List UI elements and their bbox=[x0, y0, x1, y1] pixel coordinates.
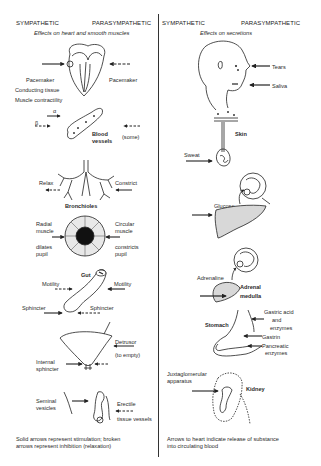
pupil-iris-illustration bbox=[65, 216, 105, 256]
heart-illustration bbox=[67, 44, 105, 96]
stomach-illustration bbox=[214, 310, 262, 356]
blood-vessel-illustration bbox=[67, 108, 102, 138]
gut-illustration bbox=[64, 270, 106, 313]
face-illustration bbox=[199, 41, 251, 110]
heart-sketch-adrenal bbox=[234, 248, 258, 272]
adrenal-medulla-illustration bbox=[213, 282, 240, 302]
heart-sketch-liver bbox=[240, 173, 270, 204]
skin-sweat-gland-illustration bbox=[214, 111, 238, 166]
kidney-illustration bbox=[213, 373, 250, 424]
genital-illustration bbox=[64, 392, 110, 423]
diagram-illustrations bbox=[0, 0, 321, 466]
liver-illustration bbox=[215, 205, 266, 238]
bladder-illustration bbox=[60, 322, 112, 370]
bronchioles-illustration bbox=[58, 160, 114, 200]
